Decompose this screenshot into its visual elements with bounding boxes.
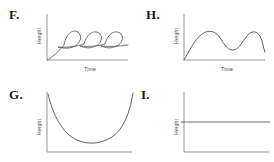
- worksheet-figure-sheet: F. Height Time H. Height: [0, 0, 274, 162]
- y-axis-label-f: Height: [36, 28, 42, 44]
- x-axis-label-f: Time: [84, 66, 96, 72]
- y-axis-label-g: Height: [36, 119, 42, 135]
- plot-area-f: [0, 0, 137, 81]
- curve-g: [48, 93, 133, 143]
- plot-area-g: [0, 81, 137, 162]
- plot-area-i: [137, 81, 274, 162]
- panel-h: H. Height Time: [137, 0, 274, 81]
- panel-g: G. Height: [0, 81, 137, 162]
- panel-f: F. Height Time: [0, 0, 137, 81]
- y-axis-label-i: Height: [173, 119, 179, 135]
- panel-i: I. Height: [137, 81, 274, 162]
- y-axis-label-h: Height: [173, 28, 179, 44]
- curve-f: [47, 31, 128, 60]
- axes-h: [184, 14, 265, 60]
- plot-area-h: [137, 0, 274, 81]
- curve-h: [184, 31, 265, 60]
- x-axis-label-h: Time: [221, 66, 233, 72]
